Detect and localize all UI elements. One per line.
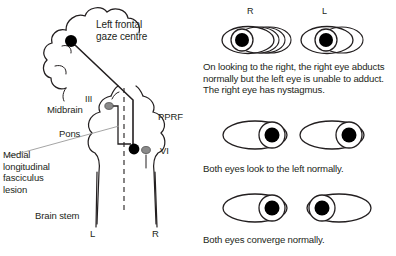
- eye-panel-gaze-right: [198, 18, 396, 64]
- left-eye-pupil: [319, 33, 333, 47]
- label-pprf: PPRF: [158, 111, 183, 123]
- label-right-nerve: R: [152, 228, 159, 240]
- right-eye-pupil: [235, 33, 249, 47]
- label-pons: Pons: [59, 128, 80, 140]
- eye-label-right-panel1: R: [247, 6, 253, 18]
- eye-panel-convergence: [198, 186, 396, 232]
- panel3-left-eye-pupil: [315, 201, 330, 216]
- mlf-pathway: [112, 106, 131, 144]
- panel3-right-eye-pupil: [265, 201, 280, 216]
- cerebral-hemisphere-outline-left: [44, 30, 66, 89]
- panel2-right-eye-pupil: [265, 128, 280, 143]
- label-left-frontal-gaze-centre: Left frontal gaze centre: [96, 19, 147, 43]
- third-nerve-nucleus-dot: [105, 103, 113, 110]
- panel2-right-eye-group: [223, 121, 287, 149]
- cerebral-sulcus-3: [63, 88, 66, 101]
- label-left-nerve: L: [90, 228, 95, 240]
- cerebral-sulcus-2: [55, 65, 66, 74]
- panel2-left-eye-pupil: [342, 128, 357, 143]
- left-eye-group: [301, 27, 363, 54]
- label-brain-stem: Brain stem: [35, 210, 79, 222]
- label-midbrain: Midbrain: [47, 104, 83, 116]
- right-eye-nystagmus-group: [222, 27, 291, 54]
- caption-panel-gaze-left: Both eyes look to the left normally.: [203, 163, 393, 175]
- sixth-nerve-nucleus-dot: [142, 147, 151, 154]
- figure-root: Left frontal gaze centre III Midbrain Po…: [0, 0, 396, 256]
- label-cn6: VI: [160, 145, 169, 157]
- label-mlf-lesion: Medial longitudinal fasciculus lesion: [3, 149, 50, 195]
- label-cn3: III: [85, 94, 92, 106]
- caption-panel-convergence: Both eyes converge normally.: [203, 234, 393, 246]
- panel2-left-eye-group: [300, 121, 364, 149]
- caption-panel-gaze-right: On looking to the right, the right eye a…: [203, 61, 393, 96]
- panel3-right-eye-group: [223, 194, 287, 222]
- brainstem-outline-left: [88, 96, 111, 224]
- eye-label-left-panel1: L: [322, 6, 327, 18]
- mlf-lesion-dot: [129, 144, 140, 155]
- third-nerve-leader: [112, 92, 119, 99]
- panel3-left-eye-group: [307, 194, 371, 222]
- eye-panel-gaze-left: [198, 113, 396, 159]
- midbrain-top-right-stub: [136, 86, 143, 96]
